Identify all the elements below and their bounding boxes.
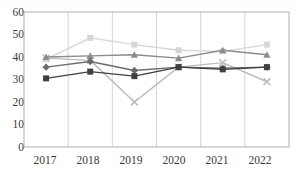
- line-chart: 60 50 40 30 20 10 0 2017 2018 2019 2020 …: [0, 0, 296, 175]
- data-point-marker-square: [264, 64, 270, 70]
- data-point-marker-square: [176, 64, 182, 70]
- data-point-marker-x: [264, 78, 271, 85]
- plot-area: [0, 0, 296, 175]
- data-point-marker-x: [131, 99, 138, 106]
- data-point-marker-square: [220, 66, 226, 72]
- data-point-marker-diamond: [131, 67, 138, 74]
- data-point-marker-square: [87, 69, 93, 75]
- data-point-marker-diamond: [42, 63, 49, 70]
- gridlines: [68, 12, 245, 147]
- data-point-marker-square: [264, 42, 270, 48]
- data-point-marker-square: [131, 73, 137, 79]
- data-point-marker-square: [131, 42, 137, 48]
- data-point-marker-square: [43, 75, 49, 81]
- data-point-marker-square: [87, 35, 93, 41]
- data-point-marker-square: [176, 47, 182, 53]
